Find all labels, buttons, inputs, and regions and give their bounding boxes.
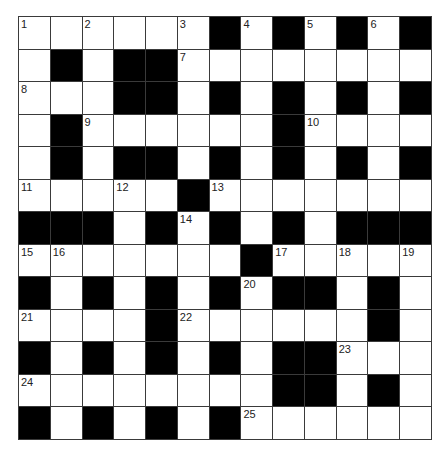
answer-cell[interactable]	[210, 310, 241, 342]
answer-cell[interactable]	[241, 50, 272, 82]
answer-cell[interactable]	[178, 277, 209, 309]
answer-cell[interactable]	[114, 375, 145, 407]
answer-cell[interactable]: 14	[178, 212, 209, 244]
answer-cell[interactable]: 15	[19, 245, 50, 277]
answer-cell[interactable]: 9	[83, 115, 114, 147]
answer-cell[interactable]: 17	[273, 245, 304, 277]
answer-cell[interactable]	[368, 180, 399, 212]
answer-cell[interactable]	[83, 147, 114, 179]
answer-cell[interactable]	[368, 342, 399, 374]
answer-cell[interactable]	[400, 375, 431, 407]
answer-cell[interactable]	[114, 212, 145, 244]
answer-cell[interactable]	[368, 407, 399, 439]
answer-cell[interactable]	[210, 115, 241, 147]
answer-cell[interactable]	[114, 245, 145, 277]
answer-cell[interactable]	[241, 342, 272, 374]
answer-cell[interactable]	[19, 115, 50, 147]
answer-cell[interactable]	[400, 50, 431, 82]
answer-cell[interactable]	[19, 147, 50, 179]
answer-cell[interactable]: 11	[19, 180, 50, 212]
answer-cell[interactable]	[400, 277, 431, 309]
answer-cell[interactable]: 19	[400, 245, 431, 277]
answer-cell[interactable]	[19, 50, 50, 82]
answer-cell[interactable]	[210, 375, 241, 407]
answer-cell[interactable]	[337, 407, 368, 439]
answer-cell[interactable]	[178, 375, 209, 407]
answer-cell[interactable]	[51, 17, 82, 49]
answer-cell[interactable]	[241, 310, 272, 342]
answer-cell[interactable]	[337, 277, 368, 309]
answer-cell[interactable]	[51, 407, 82, 439]
answer-cell[interactable]	[305, 50, 336, 82]
answer-cell[interactable]	[368, 245, 399, 277]
answer-cell[interactable]: 4	[241, 17, 272, 49]
answer-cell[interactable]	[400, 115, 431, 147]
answer-cell[interactable]: 23	[337, 342, 368, 374]
answer-cell[interactable]: 24	[19, 375, 50, 407]
answer-cell[interactable]	[83, 50, 114, 82]
answer-cell[interactable]	[337, 115, 368, 147]
answer-cell[interactable]	[400, 310, 431, 342]
answer-cell[interactable]	[146, 180, 177, 212]
answer-cell[interactable]	[305, 82, 336, 114]
answer-cell[interactable]	[114, 342, 145, 374]
answer-cell[interactable]	[273, 310, 304, 342]
answer-cell[interactable]: 1	[19, 17, 50, 49]
answer-cell[interactable]	[51, 342, 82, 374]
answer-cell[interactable]: 13	[210, 180, 241, 212]
answer-cell[interactable]	[178, 147, 209, 179]
answer-cell[interactable]	[83, 180, 114, 212]
answer-cell[interactable]	[368, 50, 399, 82]
answer-cell[interactable]	[305, 407, 336, 439]
answer-cell[interactable]	[305, 310, 336, 342]
answer-cell[interactable]: 12	[114, 180, 145, 212]
answer-cell[interactable]	[241, 375, 272, 407]
answer-cell[interactable]	[241, 180, 272, 212]
answer-cell[interactable]	[146, 245, 177, 277]
answer-cell[interactable]: 6	[368, 17, 399, 49]
answer-cell[interactable]: 21	[19, 310, 50, 342]
answer-cell[interactable]	[83, 245, 114, 277]
answer-cell[interactable]	[146, 375, 177, 407]
answer-cell[interactable]: 10	[305, 115, 336, 147]
answer-cell[interactable]	[114, 277, 145, 309]
answer-cell[interactable]	[241, 115, 272, 147]
answer-cell[interactable]	[273, 180, 304, 212]
answer-cell[interactable]: 18	[337, 245, 368, 277]
answer-cell[interactable]	[337, 310, 368, 342]
answer-cell[interactable]	[305, 212, 336, 244]
answer-cell[interactable]: 20	[241, 277, 272, 309]
answer-cell[interactable]	[83, 310, 114, 342]
answer-cell[interactable]	[305, 245, 336, 277]
answer-cell[interactable]	[114, 115, 145, 147]
answer-cell[interactable]	[114, 17, 145, 49]
answer-cell[interactable]	[51, 310, 82, 342]
answer-cell[interactable]	[273, 407, 304, 439]
answer-cell[interactable]	[241, 82, 272, 114]
answer-cell[interactable]	[241, 147, 272, 179]
answer-cell[interactable]	[178, 245, 209, 277]
answer-cell[interactable]: 22	[178, 310, 209, 342]
answer-cell[interactable]	[51, 375, 82, 407]
answer-cell[interactable]	[178, 115, 209, 147]
answer-cell[interactable]	[400, 180, 431, 212]
answer-cell[interactable]	[305, 180, 336, 212]
answer-cell[interactable]: 8	[19, 82, 50, 114]
answer-cell[interactable]	[178, 407, 209, 439]
answer-cell[interactable]	[337, 180, 368, 212]
answer-cell[interactable]	[178, 342, 209, 374]
answer-cell[interactable]: 3	[178, 17, 209, 49]
answer-cell[interactable]	[51, 180, 82, 212]
answer-cell[interactable]	[51, 82, 82, 114]
answer-cell[interactable]	[337, 375, 368, 407]
answer-cell[interactable]	[146, 17, 177, 49]
answer-cell[interactable]	[83, 375, 114, 407]
answer-cell[interactable]	[273, 50, 304, 82]
answer-cell[interactable]	[210, 50, 241, 82]
answer-cell[interactable]: 7	[178, 50, 209, 82]
answer-cell[interactable]	[114, 407, 145, 439]
answer-cell[interactable]	[305, 147, 336, 179]
answer-cell[interactable]	[368, 82, 399, 114]
answer-cell[interactable]: 25	[241, 407, 272, 439]
answer-cell[interactable]	[241, 212, 272, 244]
